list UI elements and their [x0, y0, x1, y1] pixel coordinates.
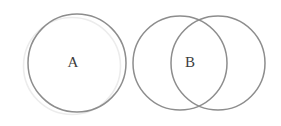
venn-diagram-svg: A B [0, 0, 281, 126]
diagram-canvas: A B [0, 0, 281, 126]
set-label-a: A [67, 54, 78, 70]
circle-b-left [133, 16, 227, 110]
set-label-b: B [185, 54, 195, 70]
